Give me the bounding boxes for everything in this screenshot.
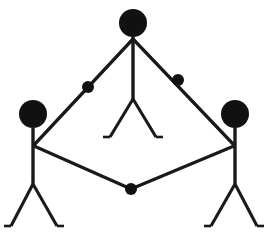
figure-right-right-leg	[235, 184, 257, 226]
figure-top-right-leg	[133, 99, 156, 137]
figure-top-left-leg	[110, 99, 133, 137]
figure-left-head-icon	[19, 100, 47, 128]
figure-left-right-leg	[33, 184, 57, 226]
figure-right-head-icon	[221, 100, 249, 128]
dot-bottom-icon[interactable]	[125, 183, 137, 195]
figure-top-head-icon	[119, 9, 147, 37]
diagram-canvas	[0, 0, 269, 240]
dot-upper-left-icon[interactable]	[82, 81, 94, 93]
figure-right-upper-arm	[133, 39, 234, 145]
figure-left-upper-arm	[34, 39, 133, 145]
figure-right-left-leg	[211, 184, 235, 226]
figure-left-lower-arm	[34, 146, 131, 189]
stick-figure-scene	[0, 0, 269, 240]
figure-right-lower-arm	[131, 146, 234, 189]
dot-upper-right-icon[interactable]	[172, 74, 184, 86]
figure-left-left-leg	[11, 184, 33, 226]
